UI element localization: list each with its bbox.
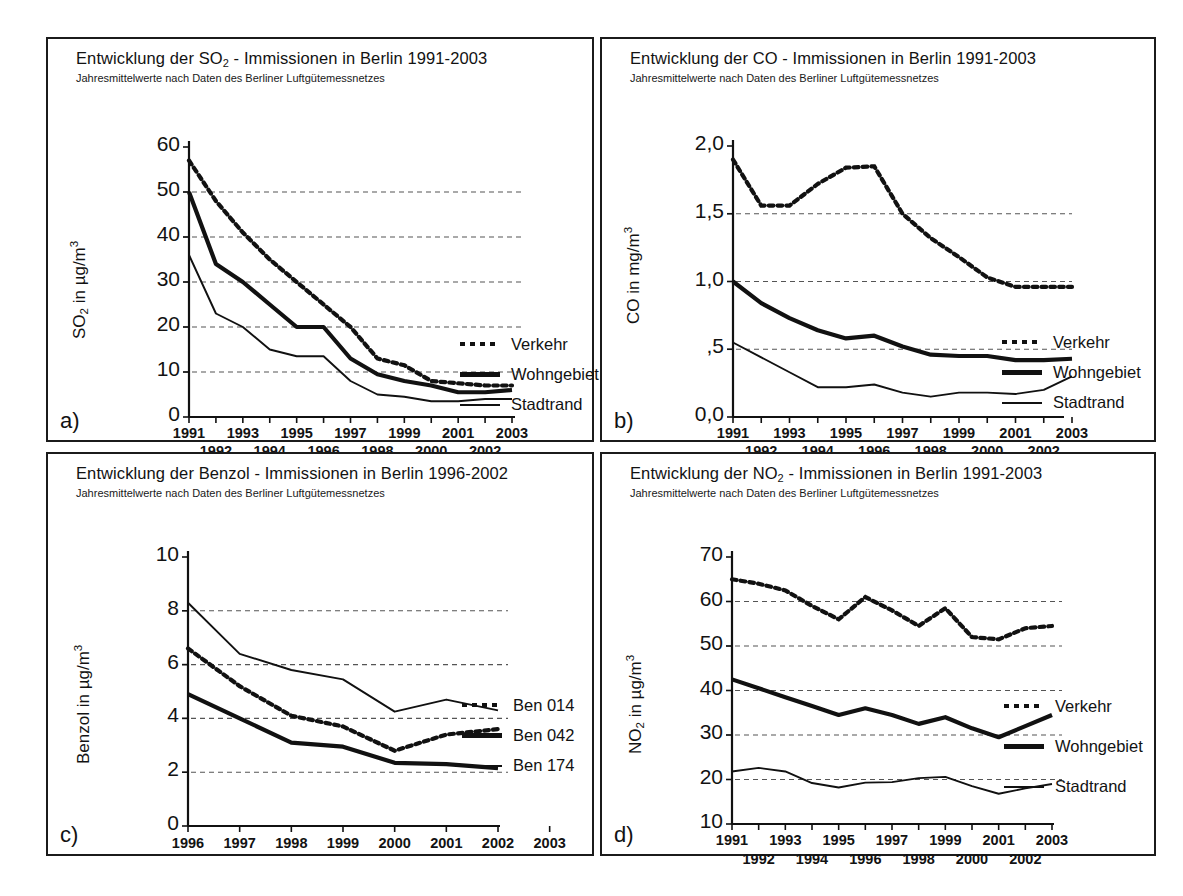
x-axis-tick-label: 1997 [216,835,264,851]
x-axis-tick-label: 1998 [267,835,315,851]
x-axis-tick-label: 2001 [975,832,1023,848]
y-axis-tick-label: 60 [700,587,723,611]
x-axis-tick-label: 1999 [935,425,983,441]
x-axis-tick-label: 1999 [921,832,969,848]
y-axis-tick-label: 10 [156,542,179,566]
legend-label: Stadtrand [1053,393,1125,412]
x-axis-tick-label: 2002 [474,835,522,851]
legend-key-thin-line-icon [1000,396,1044,408]
x-axis-tick-label: 1996 [841,851,889,867]
legend-item: Ben 174 [460,750,574,780]
legend-key-thick-line-icon [1002,740,1046,752]
x-axis-tick-label: 2003 [1028,832,1076,848]
y-axis-tick-label: 20 [157,312,180,336]
figure-page: Entwicklung der SO2 - Immissionen in Ber… [0,0,1183,896]
legend-item: Verkehr [458,329,599,359]
legend-item: Wohngebiet [1000,357,1141,387]
y-axis-tick-label: 60 [157,132,180,156]
legend-label: Stadtrand [511,395,583,414]
legend-key-thick-line-icon [460,729,504,741]
legend-key-thin-line-icon [1002,780,1046,792]
x-axis-tick-label: 2001 [992,425,1040,441]
y-axis-tick-label: 30 [157,267,180,291]
y-axis-tick-label: 0 [168,402,180,426]
x-axis-tick-label: 1998 [895,851,943,867]
y-axis-tick-label: 50 [157,177,180,201]
chart-panel-c: Entwicklung der Benzol - Immissionen in … [46,452,594,856]
y-axis-tick-label: 10 [700,809,723,833]
y-axis-tick-label: 1,0 [695,267,724,291]
chart-b-legend: Verkehr Wohngebiet Stadtrand [1000,327,1141,417]
y-axis-tick-label: 2,0 [695,131,724,155]
y-axis-tick-label: 6 [167,650,179,674]
x-axis-tick-label: 1997 [327,425,375,441]
x-axis-tick-label: 1999 [380,425,428,441]
x-axis-tick-label: 1995 [273,425,321,441]
legend-item: Verkehr [1000,327,1141,357]
legend-key-thin-line-icon [458,398,502,410]
y-axis-tick-label: 10 [157,357,180,381]
chart-d-legend: Verkehr Wohngebiet Stadtrand [1002,686,1143,806]
x-axis-tick-label: 2000 [371,835,419,851]
x-axis-tick-label: 1991 [165,425,213,441]
x-axis-tick-label: 2002 [1001,851,1049,867]
legend-item: Ben 014 [460,690,574,720]
legend-item: Stadtrand [458,389,599,419]
x-axis-tick-label: 1991 [708,832,756,848]
legend-item: Stadtrand [1000,387,1141,417]
x-axis-tick-label: 1991 [709,425,757,441]
x-axis-tick-label: 2003 [526,835,574,851]
y-axis-tick-label: 1,5 [695,199,724,223]
x-axis-tick-label: 2000 [948,851,996,867]
legend-label: Ben 042 [513,726,574,745]
chart-a-legend: Verkehr Wohngebiet Stadtrand [458,329,599,419]
legend-key-dotted-icon [1002,700,1046,712]
y-axis-tick-label: 8 [167,596,179,620]
chart-c-legend: Ben 014 Ben 042 Ben 174 [460,690,574,780]
legend-label: Wohngebiet [1053,363,1141,382]
legend-item: Verkehr [1002,686,1143,726]
legend-key-dotted-icon [460,699,504,711]
y-axis-tick-label: 40 [157,222,180,246]
x-axis-tick-label: 1992 [735,851,783,867]
y-axis-tick-label: 40 [700,676,723,700]
y-axis-tick-label: 20 [700,765,723,789]
legend-item: Wohngebiet [1002,726,1143,766]
y-axis-tick-label: 0 [167,811,179,835]
x-axis-tick-label: 1995 [822,425,870,441]
y-axis-tick-label: 2 [167,757,179,781]
legend-key-thin-line-icon [460,759,504,771]
y-axis-tick-label: 50 [700,631,723,655]
y-axis-tick-label: 70 [700,542,723,566]
legend-item: Ben 042 [460,720,574,750]
legend-key-dotted-icon [1000,336,1044,348]
y-axis-tick-label: 30 [700,720,723,744]
y-axis-tick-label: ,5 [706,334,724,358]
x-axis-tick-label: 2003 [1048,425,1096,441]
legend-label: Ben 014 [513,696,574,715]
x-axis-tick-label: 1997 [879,425,927,441]
x-axis-tick-label: 2001 [422,835,470,851]
x-axis-tick-label: 2003 [488,425,536,441]
chart-panel-b: Entwicklung der CO - Immissionen in Berl… [600,37,1156,442]
x-axis-tick-label: 2001 [434,425,482,441]
legend-label: Verkehr [1055,697,1112,716]
legend-label: Verkehr [1053,333,1110,352]
x-axis-tick-label: 1995 [815,832,863,848]
legend-label: Stadtrand [1055,777,1127,796]
x-axis-tick-label: 1993 [766,425,814,441]
x-axis-tick-label: 1997 [868,832,916,848]
chart-panel-d: Entwicklung der NO2 - Immissionen in Ber… [600,452,1156,856]
legend-key-thick-line-icon [1000,366,1044,378]
y-axis-tick-label: 4 [167,703,179,727]
legend-key-dotted-icon [458,338,502,350]
x-axis-tick-label: 1993 [219,425,267,441]
y-axis-tick-label: 0,0 [695,402,724,426]
x-axis-tick-label: 1999 [319,835,367,851]
x-axis-tick-label: 1993 [761,832,809,848]
legend-item: Wohngebiet [458,359,599,389]
legend-key-thick-line-icon [458,368,502,380]
legend-label: Wohngebiet [1055,737,1143,756]
legend-label: Ben 174 [513,756,574,775]
legend-item: Stadtrand [1002,766,1143,806]
